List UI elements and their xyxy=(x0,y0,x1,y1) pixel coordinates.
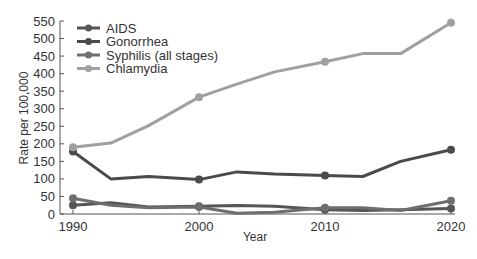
axes: 0501001502002503003504004505005501990200… xyxy=(33,14,465,235)
legend-marker-icon xyxy=(85,52,92,59)
data-point-marker xyxy=(447,197,455,205)
legend: AIDSGonorrheaSyphilis (all stages)Chlamy… xyxy=(77,21,218,77)
data-point-marker xyxy=(321,171,329,179)
x-tick-label: 2020 xyxy=(437,219,466,234)
data-point-marker xyxy=(69,143,77,151)
legend-marker-icon xyxy=(85,25,92,32)
data-point-marker xyxy=(447,146,455,154)
data-point-marker xyxy=(321,204,329,212)
chart-canvas: 0501001502002503003504004505005501990200… xyxy=(0,0,477,259)
data-point-marker xyxy=(195,93,203,101)
y-tick-label: 150 xyxy=(33,154,55,169)
data-point-marker xyxy=(69,201,77,209)
y-tick-label: 300 xyxy=(33,101,55,116)
line-chart: 0501001502002503003504004505005501990200… xyxy=(0,0,477,259)
y-tick-label: 100 xyxy=(33,171,55,186)
y-tick-label: 450 xyxy=(33,49,55,64)
y-tick-label: 50 xyxy=(41,189,55,204)
y-axis-label: Rate per 100,000 xyxy=(17,71,31,164)
data-point-marker xyxy=(321,58,329,66)
y-tick-label: 0 xyxy=(48,207,55,222)
data-point-marker xyxy=(69,194,77,202)
legend-marker-icon xyxy=(85,65,92,72)
x-tick-label: 1990 xyxy=(59,219,88,234)
legend-label: Chlamydia xyxy=(106,61,168,76)
x-tick-label: 2000 xyxy=(185,219,214,234)
data-point-marker xyxy=(447,19,455,27)
data-point-marker xyxy=(195,176,203,184)
series-line xyxy=(73,150,451,180)
legend-marker-icon xyxy=(85,38,92,45)
legend-item: Chlamydia xyxy=(77,61,168,76)
x-tick-label: 2010 xyxy=(311,219,340,234)
data-point-marker xyxy=(447,204,455,212)
y-tick-label: 250 xyxy=(33,119,55,134)
data-point-marker xyxy=(195,203,203,211)
series-gonorrhea xyxy=(69,146,455,184)
y-tick-label: 350 xyxy=(33,84,55,99)
y-tick-label: 200 xyxy=(33,136,55,151)
y-tick-label: 400 xyxy=(33,66,55,81)
y-tick-label: 550 xyxy=(33,14,55,29)
x-axis-label: Year xyxy=(243,230,267,244)
y-tick-label: 500 xyxy=(33,31,55,46)
